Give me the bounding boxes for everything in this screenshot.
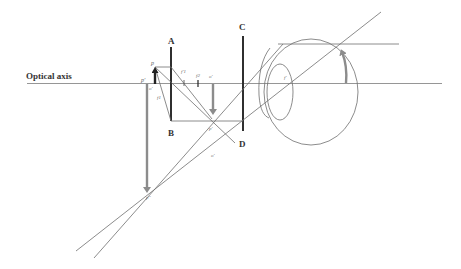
label-p-prime-mid: p' xyxy=(208,126,214,131)
label-o-prime-bottom: o' xyxy=(211,153,216,158)
optics-diagram: Optical axis A B C D p p' o' f1 f'1 f2 o… xyxy=(0,0,461,269)
label-f2: f2 xyxy=(196,73,200,78)
lens-label-d: D xyxy=(239,139,246,149)
ray-eyepiece-2 xyxy=(76,12,381,251)
ray-p-through-center xyxy=(155,67,235,143)
label-o-small: o' xyxy=(149,86,154,91)
label-p-prime-left: p' xyxy=(140,77,146,83)
label-p-double-prime: p'' xyxy=(145,195,152,200)
label-o-prime-top: o' xyxy=(209,74,214,79)
lens-label-c: C xyxy=(239,22,246,32)
lens-label-b: B xyxy=(168,128,174,138)
label-f1-prime: f'1 xyxy=(181,69,186,74)
label-p-top: p xyxy=(150,60,154,66)
ray-eyepiece-1 xyxy=(94,44,283,258)
eye-lens xyxy=(267,64,293,120)
label-f-eye: f' xyxy=(284,75,287,80)
optical-axis-label: Optical axis xyxy=(26,71,72,81)
label-f1: f1 xyxy=(157,95,161,100)
lens-label-a: A xyxy=(168,36,175,46)
